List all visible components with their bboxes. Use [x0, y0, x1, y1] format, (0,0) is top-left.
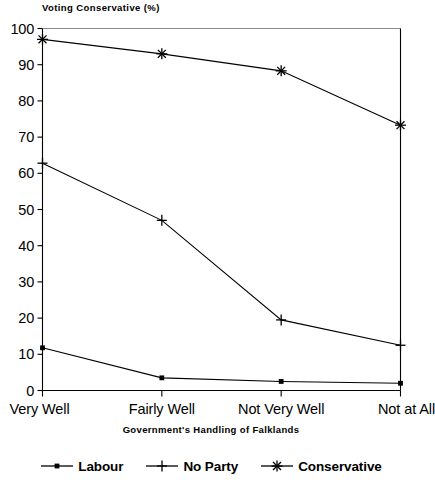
y-tick-label: 80 — [0, 94, 34, 109]
dot-marker-icon — [40, 458, 74, 474]
legend-entry-conservative: Conservative — [260, 458, 382, 474]
legend-entry-no-party: No Party — [145, 458, 238, 474]
series-conservative — [37, 34, 406, 131]
y-tick-label: 50 — [0, 203, 34, 218]
x-tick-label: Not Very Well — [238, 402, 324, 417]
legend-label: Conservative — [298, 459, 382, 474]
y-tick-label: 100 — [0, 22, 34, 37]
x-tick-label: Fairly Well — [129, 402, 195, 417]
legend-entry-labour: Labour — [40, 458, 123, 474]
y-tick-label: 0 — [0, 384, 34, 399]
series-no-party — [38, 158, 406, 351]
chart-legend: LabourNo PartyConservative — [0, 458, 422, 474]
y-tick-label: 70 — [0, 130, 34, 145]
x-tick-label: Not at All — [378, 402, 435, 417]
y-tick-label: 40 — [0, 239, 34, 254]
y-tick-label: 30 — [0, 275, 34, 290]
y-tick-label: 10 — [0, 347, 34, 362]
legend-label: No Party — [183, 459, 238, 474]
y-tick-label: 90 — [0, 58, 34, 73]
y-tick-label: 20 — [0, 311, 34, 326]
y-tick-label: 60 — [0, 166, 34, 181]
plus-marker-icon — [145, 458, 179, 474]
legend-label: Labour — [78, 459, 123, 474]
x-axis-title: Government's Handling of Falklands — [0, 424, 422, 435]
asterisk-marker-icon — [260, 458, 294, 474]
series-labour — [40, 345, 403, 385]
x-tick-label: Very Well — [9, 402, 69, 417]
